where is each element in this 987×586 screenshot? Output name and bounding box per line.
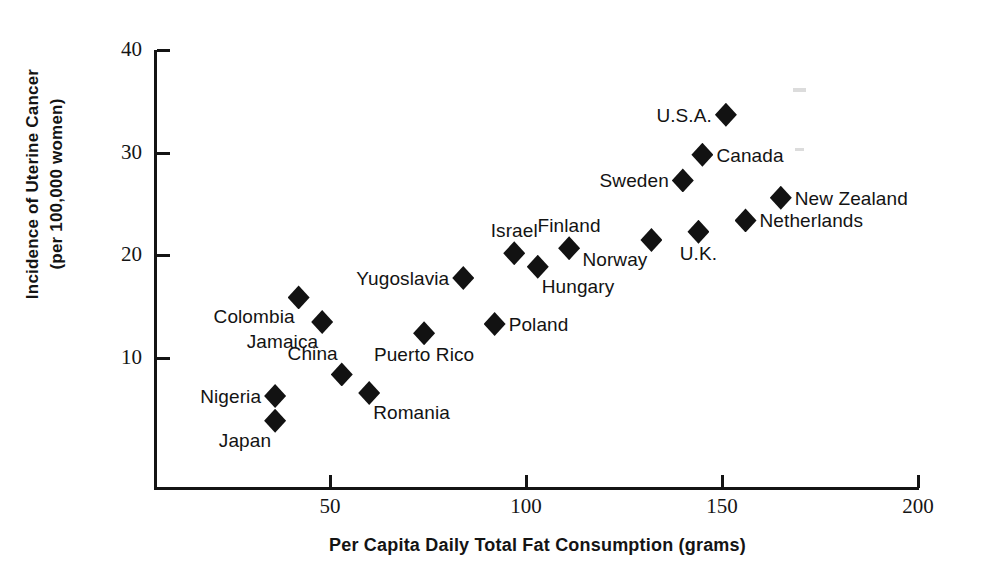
data-point-label: Norway bbox=[582, 250, 647, 269]
diamond-marker-icon bbox=[715, 103, 737, 127]
y-axis-title-line-1: Incidence of Uterine Cancer bbox=[21, 19, 45, 349]
diamond-marker-icon bbox=[770, 186, 792, 210]
x-axis-tick bbox=[917, 475, 920, 488]
data-point-label: China bbox=[288, 344, 338, 363]
x-axis-line bbox=[154, 487, 919, 490]
data-point-label: Israel bbox=[491, 221, 538, 240]
data-point-label: Sweden bbox=[600, 171, 669, 190]
data-point-label: Poland bbox=[509, 315, 569, 334]
diamond-marker-icon bbox=[484, 312, 506, 336]
data-point-label: Colombia bbox=[214, 307, 295, 326]
data-point-label: Romania bbox=[373, 403, 450, 422]
data-point-label: Hungary bbox=[542, 277, 615, 296]
x-axis-title: Per Capita Daily Total Fat Consumption (… bbox=[155, 535, 920, 556]
scan-artifact bbox=[795, 148, 804, 151]
y-axis-tick-label: 40 bbox=[96, 39, 142, 60]
data-point-label: Japan bbox=[219, 431, 271, 450]
y-axis-tick bbox=[157, 49, 170, 52]
diamond-marker-icon bbox=[672, 168, 694, 192]
x-axis-tick bbox=[525, 475, 528, 488]
scatter-chart: 10203040 50100150200 Incidence of Uterin… bbox=[0, 0, 987, 586]
scan-artifact bbox=[793, 88, 806, 92]
y-axis-tick bbox=[157, 152, 170, 155]
data-point-label: Yugoslavia bbox=[356, 269, 449, 288]
y-axis-title: Incidence of Uterine Cancer (per 100,000… bbox=[21, 19, 69, 349]
y-axis-tick-label: 20 bbox=[96, 244, 142, 265]
data-point-label: New Zealand bbox=[795, 189, 908, 208]
x-axis-tick-label: 100 bbox=[491, 494, 561, 518]
x-axis-tick-label: 200 bbox=[883, 494, 953, 518]
diamond-marker-icon bbox=[691, 143, 713, 167]
y-axis-title-line-2: (per 100,000 women) bbox=[45, 19, 69, 349]
data-point-label: Nigeria bbox=[200, 387, 261, 406]
diamond-marker-icon bbox=[264, 384, 286, 408]
x-axis-tick bbox=[721, 475, 724, 488]
data-point-label: Puerto Rico bbox=[374, 345, 474, 364]
diamond-marker-icon bbox=[413, 321, 435, 345]
diamond-marker-icon bbox=[558, 236, 580, 260]
x-axis-tick-label: 150 bbox=[687, 494, 757, 518]
y-axis-tick-label: 30 bbox=[96, 142, 142, 163]
diamond-marker-icon bbox=[687, 220, 709, 244]
y-axis-tick bbox=[157, 357, 170, 360]
y-axis-tick-label: 10 bbox=[96, 347, 142, 368]
x-axis-tick-label: 50 bbox=[295, 494, 365, 518]
data-point-label: Canada bbox=[716, 146, 783, 165]
diamond-marker-icon bbox=[503, 241, 525, 265]
x-axis-tick bbox=[329, 475, 332, 488]
data-point-label: U.K. bbox=[680, 244, 717, 263]
y-axis-tick bbox=[157, 254, 170, 257]
data-point-label: Finland bbox=[538, 216, 601, 235]
y-axis-line bbox=[154, 50, 157, 490]
data-point-label: U.S.A. bbox=[656, 106, 712, 125]
diamond-marker-icon bbox=[452, 266, 474, 290]
diamond-marker-icon bbox=[735, 208, 757, 232]
data-point-label: Netherlands bbox=[760, 211, 864, 230]
diamond-marker-icon bbox=[331, 362, 353, 386]
